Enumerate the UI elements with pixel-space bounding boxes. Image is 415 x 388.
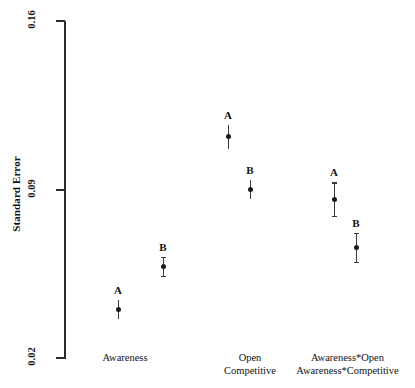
y-tick-mark-2 [56,357,65,359]
error-bar-cap-lower [332,216,338,217]
data-point-label: A [108,285,128,296]
x-axis-label-2: Awareness*OpenAwareness*Competitive [280,351,415,377]
y-axis-title: Standard Error [4,0,28,388]
data-point-marker [332,197,337,202]
y-tick-label-text: 0.16 [26,10,37,28]
data-point-marker [161,264,166,269]
data-point-marker [354,245,359,250]
error-bar-cap-upper [161,257,167,258]
x-axis-label-0: Awareness [70,351,180,364]
error-bar-cap-lower [161,276,167,277]
x-axis-label-line: Awareness*Competitive [280,364,415,377]
y-tick-mark-1 [56,189,65,191]
y-tick-mark-0 [56,20,65,22]
x-axis-label-line: Awareness [70,351,180,364]
y-tick-label-text: 0.02 [26,347,37,365]
data-point-marker [116,307,121,312]
data-point-label: A [324,167,344,178]
data-point-marker [248,187,253,192]
x-axis-label-line: Awareness*Open [280,351,415,364]
data-point-label: B [153,242,173,253]
data-point-marker [226,134,231,139]
data-point-label: A [218,110,238,121]
error-bar-cap-upper [354,233,360,234]
error-bar-cap-upper [332,182,338,183]
y-tick-label-text: 0.09 [26,179,37,197]
y-tick-label-1: 0.09 [8,183,54,194]
data-point-label: B [346,218,366,229]
standard-error-plot: Standard Error 0.160.090.02 ABABAB Aware… [0,0,415,388]
data-point-label: B [240,165,260,176]
y-tick-label-2: 0.02 [8,351,54,362]
plot-area: ABABAB [66,0,415,388]
error-bar-cap-lower [354,262,360,263]
y-axis-title-text: Standard Error [10,156,22,231]
y-tick-label-0: 0.16 [8,14,54,25]
